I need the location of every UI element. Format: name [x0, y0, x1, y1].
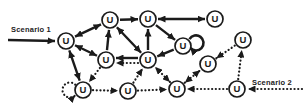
state-node-n3: U [140, 11, 156, 27]
state-node-label: U [174, 83, 181, 94]
state-node-n4: U [207, 11, 223, 27]
transition-edge-n7-n2 [107, 30, 109, 50]
state-node-label: U [107, 14, 114, 25]
diagram-canvas: UUUUUUUUUUUUU [0, 0, 305, 108]
state-node-label: U [103, 54, 110, 65]
scenario1-label: Scenario 1 [11, 25, 51, 34]
state-node-n9: U [200, 56, 216, 72]
state-node-n6: U [235, 32, 251, 48]
state-node-n5: U [175, 38, 191, 54]
state-node-n8: U [140, 52, 156, 68]
transition-edge-n6-n9 [216, 46, 235, 59]
transition-edge-n2-n8 [117, 27, 141, 53]
transition-edge-n1-n2 [75, 24, 101, 36]
state-node-n10: U [75, 82, 91, 98]
transition-edge-n10-n11 [93, 90, 118, 91]
state-node-label: U [125, 85, 132, 96]
state-node-n7: U [98, 52, 114, 68]
state-node-label: U [80, 84, 87, 95]
state-node-label: U [145, 54, 152, 65]
self-loop-n5 [190, 35, 204, 50]
transition-edge-n12-n8 [155, 67, 170, 82]
transition-edge-n1-n10 [69, 50, 79, 80]
transition-edge-n1-n7 [75, 45, 97, 55]
state-node-label: U [240, 34, 247, 45]
state-node-label: U [205, 58, 212, 69]
transition-edge-n5-n8 [157, 50, 173, 57]
transition-edge-n3-n5 [156, 25, 175, 40]
transition-edge-n7-n10 [89, 68, 100, 82]
state-node-n11: U [120, 83, 136, 99]
state-transition-diagram: UUUUUUUUUUUUU Scenario 1 Scenario 2 [0, 0, 305, 108]
state-node-n13: U [229, 81, 245, 97]
transition-edge-n11-n12 [138, 89, 167, 90]
transition-edge-n11-n8 [133, 68, 142, 82]
transition-edge-n12-n9 [185, 70, 200, 82]
state-node-n12: U [169, 81, 185, 97]
scenario2-label: Scenario 2 [252, 78, 292, 87]
state-node-label: U [63, 35, 70, 46]
state-node-label: U [145, 13, 152, 24]
state-node-label: U [180, 40, 187, 51]
state-node-label: U [234, 83, 241, 94]
state-node-label: U [212, 13, 219, 24]
self-loop-n10 [62, 82, 75, 97]
scenario1-arrow [8, 40, 55, 41]
state-node-n2: U [102, 12, 118, 28]
transition-edge-n13-n6 [238, 50, 242, 79]
state-node-n1: U [58, 33, 74, 49]
